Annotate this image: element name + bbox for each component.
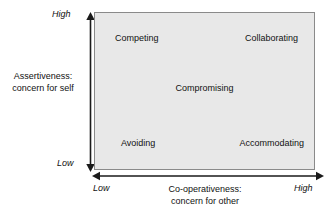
mode-label-accommodating: Accommodating xyxy=(239,138,304,149)
y-axis-title: Assertiveness: concern for self xyxy=(2,70,84,94)
x-axis-high-label: High xyxy=(294,183,313,193)
y-axis-title-line-2: concern for self xyxy=(2,82,84,94)
mode-label-collaborating: Collaborating xyxy=(245,33,298,44)
y-axis-low-label: Low xyxy=(57,158,74,168)
x-axis-title: Co-operativeness: concern for other xyxy=(120,183,290,207)
x-axis-title-line-2: concern for other xyxy=(120,195,290,207)
y-axis-title-line-1: Assertiveness: xyxy=(2,70,84,82)
mode-label-avoiding: Avoiding xyxy=(121,138,155,149)
plot-area: Competing Collaborating Compromising Avo… xyxy=(94,12,315,170)
y-axis-high-label: High xyxy=(52,9,71,19)
cooperativeness-axis-arrow-icon xyxy=(92,170,324,182)
x-axis-low-label: Low xyxy=(93,183,110,193)
x-axis-title-line-1: Co-operativeness: xyxy=(120,183,290,195)
mode-label-competing: Competing xyxy=(115,33,159,44)
conflict-mode-diagram: High Low Low High Assertiveness: concern… xyxy=(0,0,328,210)
mode-label-compromising: Compromising xyxy=(175,83,233,94)
